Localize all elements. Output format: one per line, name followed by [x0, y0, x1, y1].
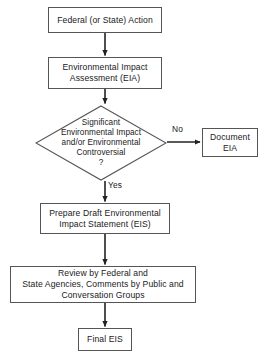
node-review-by-agencies-label: Review by Federal and State Agencies, Co… [19, 268, 186, 301]
node-prepare-draft-eis: Prepare Draft Environmental Impact State… [40, 203, 170, 234]
node-review-by-agencies: Review by Federal and State Agencies, Co… [10, 266, 196, 303]
node-final-eis: Final EIS [78, 328, 132, 351]
node-prepare-draft-eis-label: Prepare Draft Environmental Impact State… [46, 208, 164, 230]
node-environmental-impact-assessment: Environmental Impact Assessment (EIA) [48, 57, 162, 89]
node-document-eia-label: Document EIA [207, 132, 253, 154]
edge-label-no: No [172, 124, 183, 134]
node-decision-label: Significant Environmental Impact and/or … [61, 118, 141, 168]
node-final-eis-label: Final EIS [84, 334, 126, 345]
edge-label-yes: Yes [108, 180, 122, 190]
node-document-eia: Document EIA [202, 128, 258, 157]
node-decision-significant-impact: Significant Environmental Impact and/or … [35, 105, 167, 181]
node-federal-action-label: Federal (or State) Action [54, 15, 156, 26]
node-environmental-impact-assessment-label: Environmental Impact Assessment (EIA) [59, 62, 150, 84]
node-federal-action: Federal (or State) Action [48, 7, 162, 33]
